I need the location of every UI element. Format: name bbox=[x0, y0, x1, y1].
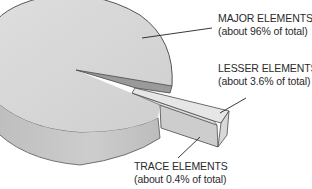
trace-leader-line bbox=[178, 137, 200, 158]
lesser-label: LESSER ELEMENTS (about 3.6% of total) bbox=[218, 62, 312, 88]
trace-label: TRACE ELEMENTS (about 0.4% of total) bbox=[134, 160, 228, 186]
major-label-sub: (about 96% of total) bbox=[218, 25, 312, 38]
lesser-label-sub: (about 3.6% of total) bbox=[218, 75, 312, 88]
trace-label-title: TRACE ELEMENTS bbox=[134, 160, 228, 173]
major-label: MAJOR ELEMENTS (about 96% of total) bbox=[218, 12, 312, 38]
lesser-leader-line bbox=[220, 98, 246, 113]
lesser-label-title: LESSER ELEMENTS bbox=[218, 62, 312, 75]
major-label-title: MAJOR ELEMENTS bbox=[218, 12, 312, 25]
trace-label-sub: (about 0.4% of total) bbox=[134, 173, 228, 186]
